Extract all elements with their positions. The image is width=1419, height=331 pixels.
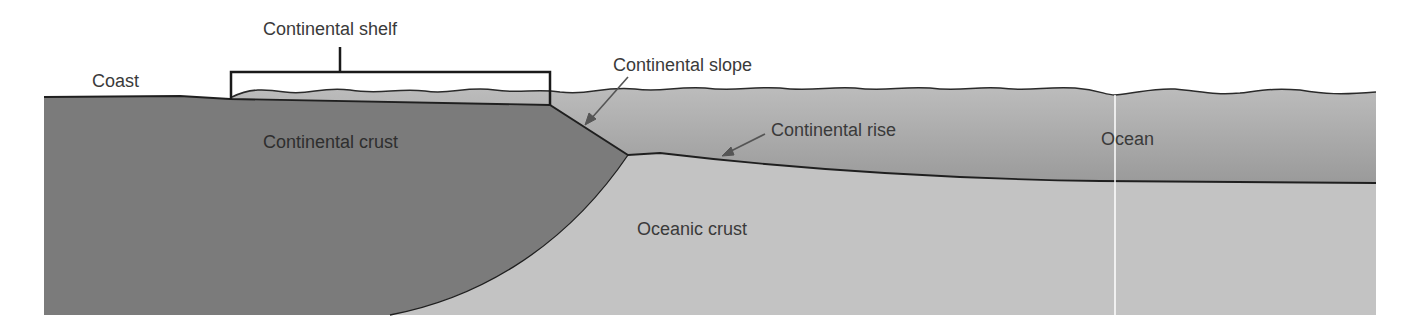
- continental-margin-diagram: [0, 0, 1419, 331]
- label-ocean: Ocean: [1101, 130, 1154, 148]
- label-continental-slope: Continental slope: [613, 56, 752, 74]
- label-coast: Coast: [92, 72, 139, 90]
- label-oceanic-crust: Oceanic crust: [637, 220, 747, 238]
- label-continental-shelf: Continental shelf: [263, 20, 397, 38]
- label-continental-rise: Continental rise: [771, 121, 896, 139]
- label-continental-crust: Continental crust: [263, 133, 398, 151]
